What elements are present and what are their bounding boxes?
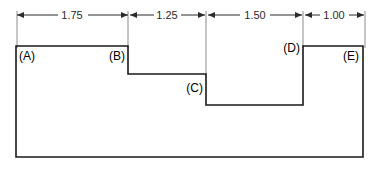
dimension-ab: 1.75	[17, 9, 128, 21]
vertex-label-b: (B)	[109, 49, 125, 63]
dimension-de: 1.00	[305, 9, 364, 21]
dimension-label-de: 1.00	[323, 9, 344, 21]
dimension-label-ab: 1.75	[61, 9, 82, 21]
engineering-drawing-canvas: 1.75 1.25 1.50 1.00 (A) (B) (C) (D) (E)	[0, 0, 379, 172]
vertex-label-e: (E)	[343, 49, 359, 63]
vertex-label-a: (A)	[19, 49, 35, 63]
vertex-label-d: (D)	[283, 41, 300, 55]
dimension-cd: 1.50	[208, 9, 302, 21]
dimension-label-bc: 1.25	[156, 9, 177, 21]
vertex-label-c: (C)	[186, 81, 203, 95]
dimension-bc: 1.25	[130, 9, 205, 21]
vertex-labels-group: (A) (B) (C) (D) (E)	[19, 41, 359, 95]
stepped-profile-outline	[16, 46, 363, 157]
dimension-label-cd: 1.50	[244, 9, 265, 21]
